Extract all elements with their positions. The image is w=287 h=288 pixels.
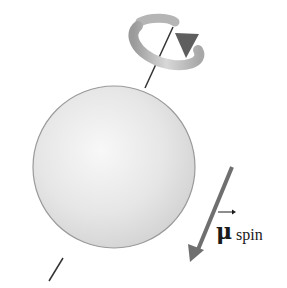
vector-arrow-icon [232,210,236,215]
rotation-ring-back [140,18,175,22]
mu-spin-arrowhead-icon [188,244,204,262]
sphere [33,86,195,248]
spin-diagram [0,0,287,288]
mu-subscript: spin [236,226,263,244]
mu-symbol: μ [216,218,232,244]
spin-axis-bottom [49,258,63,281]
